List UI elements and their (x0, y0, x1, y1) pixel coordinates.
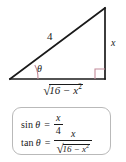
tangent-radicand-base: 16 − x (63, 144, 87, 154)
tangent-denominator: √16 − x2 (54, 141, 92, 155)
tangent-theta-symbol: θ (36, 137, 41, 148)
radicand-exponent: 2 (78, 83, 82, 91)
tangent-radicand-exponent: 2 (86, 143, 89, 149)
tangent-denominator-radical: √16 − x2 (56, 142, 90, 155)
trigonometry-figure: 4 x θ √16 − x2 sin θ = x 4 tan θ = x (0, 0, 126, 162)
formula-box: sin θ = x 4 tan θ = x √16 − x2 (12, 107, 111, 155)
tangent-radicand: 16 − x2 (63, 144, 91, 154)
tangent-fraction: x √16 − x2 (54, 129, 92, 155)
radicand: 16 − x2 (49, 84, 82, 96)
opposite-side-label: x (111, 38, 115, 48)
sine-numerator: x (54, 113, 62, 124)
radical-expression: √16 − x2 (43, 84, 83, 97)
tangent-numerator: x (69, 129, 77, 140)
radicand-base: 16 − x (49, 84, 78, 96)
triangle-hypotenuse-line (10, 8, 105, 79)
angle-theta-label: θ (37, 64, 42, 74)
adjacent-side-label: √16 − x2 (0, 84, 126, 97)
tangent-function-name: tan (21, 137, 34, 148)
right-angle-marker-icon (95, 69, 105, 79)
hypotenuse-label: 4 (47, 31, 53, 42)
formula-tangent-row: tan θ = x √16 − x2 (21, 129, 92, 155)
tangent-equals-sign: = (45, 137, 51, 148)
